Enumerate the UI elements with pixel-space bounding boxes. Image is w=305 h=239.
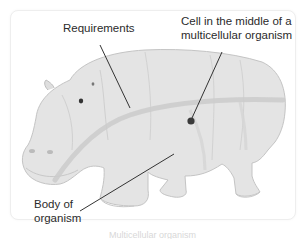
body-label-line1: Body of <box>34 197 81 211</box>
figure-caption: Multicellular organism <box>0 230 305 239</box>
cell-label: Cell in the middle of a multicellular or… <box>181 14 292 42</box>
cell-label-line1: Cell in the middle of a <box>181 14 292 28</box>
body-label: Body of organism <box>34 197 81 225</box>
body-label-line2: organism <box>34 211 81 225</box>
requirements-label: Requirements <box>63 21 135 35</box>
eye-icon <box>79 99 83 104</box>
ear-inner-icon <box>92 82 95 86</box>
ear-icon <box>45 80 54 90</box>
cell-marker-dot <box>187 117 194 124</box>
cell-label-line2: multicellular organism <box>181 28 292 42</box>
